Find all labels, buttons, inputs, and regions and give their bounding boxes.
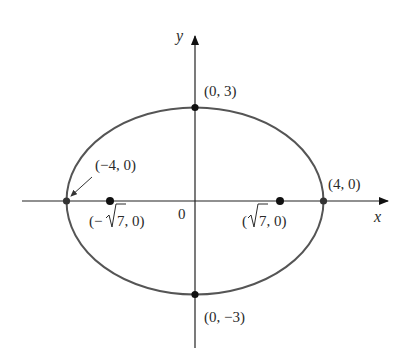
- right-vertex-point: [320, 197, 327, 204]
- bottom-vertex-label: (0, −3): [204, 309, 245, 326]
- top-vertex-point: [191, 104, 198, 111]
- origin-label: 0: [178, 206, 186, 222]
- bottom-vertex-point: [191, 291, 198, 298]
- svg-text:(−: (−: [89, 213, 102, 230]
- y-axis-label: y: [174, 27, 184, 45]
- right-focus-point: [276, 197, 284, 205]
- right-vertex-label: (4, 0): [328, 176, 361, 193]
- right-focus-label: ( 7, 0): [242, 204, 287, 230]
- left-vertex-point: [63, 197, 70, 204]
- svg-text:7, 0): 7, 0): [117, 213, 145, 230]
- x-axis-label: x: [373, 208, 381, 225]
- svg-text:7, 0): 7, 0): [259, 213, 287, 230]
- top-vertex-label: (0, 3): [204, 83, 237, 100]
- ellipse-diagram: y x 0 (0, 3) (0, −3) (−4, 0) (4, 0) (− 7…: [0, 0, 412, 361]
- left-focus-point: [106, 197, 114, 205]
- svg-text:(: (: [242, 213, 247, 230]
- left-vertex-label: (−4, 0): [95, 157, 136, 174]
- pointer-arrow: [71, 177, 92, 196]
- left-focus-label: (− 7, 0): [89, 204, 145, 230]
